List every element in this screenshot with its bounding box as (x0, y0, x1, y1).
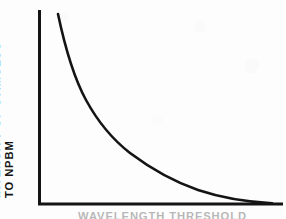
figure-container: INTENSITY OF STIMULUS TO NPBM WAVELENGTH… (0, 0, 286, 219)
y-axis-label-line-1: INTENSITY OF STIMULUS (0, 2, 2, 198)
plot-svg (0, 0, 286, 219)
y-axis-label-line-2: TO NPBM (3, 2, 15, 198)
y-axis-label-group: INTENSITY OF STIMULUS TO NPBM (0, 0, 36, 208)
decay-curve (58, 14, 272, 203)
plot-area (0, 0, 286, 219)
x-axis-label: WAVELENGTH THRESHOLD (39, 210, 286, 219)
